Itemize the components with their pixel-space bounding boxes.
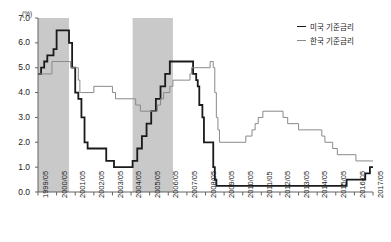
x-axis-tick-label: 2002/05 <box>97 171 106 198</box>
x-axis-tick-label: 2017/05 <box>376 171 385 198</box>
x-axis-tick-label: 2012/05 <box>283 171 292 198</box>
legend-line-swatch-icon <box>297 40 306 41</box>
y-axis-tick-label: 1.0 <box>4 162 30 172</box>
x-axis-tick-label: 2004/05 <box>134 171 143 198</box>
chart-legend: 미국 기준금리한국 기준금리 <box>297 20 354 48</box>
x-axis-tick-label: 2000/05 <box>60 171 69 198</box>
series-line-us <box>38 30 373 185</box>
x-axis-tick-label: 2009/05 <box>227 171 236 198</box>
y-axis-tick-label: 6.0 <box>4 37 30 47</box>
x-axis-tick-label: 2013/05 <box>302 171 311 198</box>
x-axis-tick-label: 2005/05 <box>153 171 162 198</box>
legend-item: 한국 기준금리 <box>297 34 354 46</box>
x-axis-tick-label: 2014/05 <box>320 171 329 198</box>
y-axis-tick-label: 4.0 <box>4 87 30 97</box>
x-axis-tick-label: 2008/05 <box>209 171 218 198</box>
y-axis-tick-label: 7.0 <box>4 13 30 23</box>
x-axis-tick-label: 2016/05 <box>358 171 367 198</box>
x-axis-tick-label: 1999/05 <box>41 171 50 198</box>
legend-line-swatch-icon <box>297 26 306 27</box>
x-axis-tick-label: 2011/05 <box>265 171 274 198</box>
y-axis-tick-label: 2.0 <box>4 137 30 147</box>
legend-label: 미국 기준금리 <box>310 21 354 32</box>
y-axis-tick-label: 5.0 <box>4 62 30 72</box>
chart-container: (%) 0.01.02.03.04.05.06.07.0 1999/052000… <box>0 0 391 242</box>
y-axis-tick-label: 0.0 <box>4 187 30 197</box>
y-axis-tick-label: 3.0 <box>4 112 30 122</box>
x-axis-tick-label: 2010/05 <box>246 171 255 198</box>
legend-label: 한국 기준금리 <box>310 35 354 46</box>
us-tightening-band-1 <box>38 18 69 192</box>
x-axis-tick-label: 2006/05 <box>171 171 180 198</box>
legend-item: 미국 기준금리 <box>297 20 354 32</box>
x-axis-tick-label: 2001/05 <box>78 171 87 198</box>
x-axis-tick-label: 2003/05 <box>116 171 125 198</box>
x-axis-tick-label: 2007/05 <box>190 171 199 198</box>
x-axis-tick-label: 2015/05 <box>339 171 348 198</box>
